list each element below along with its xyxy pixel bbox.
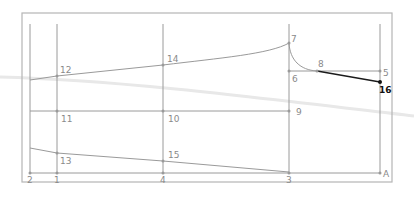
line-8-16 xyxy=(317,71,380,82)
point-14-marker xyxy=(162,64,165,67)
point-A-marker xyxy=(379,172,382,175)
label-3: 3 xyxy=(286,175,292,185)
point-12-marker xyxy=(56,75,59,78)
label-7: 7 xyxy=(291,34,297,44)
point-9-marker xyxy=(288,110,291,113)
curve-7-8 xyxy=(289,43,317,71)
point-10-marker xyxy=(162,110,165,113)
point-5-marker xyxy=(379,70,382,73)
point-11-marker xyxy=(56,110,59,113)
pattern-draft-diagram: 2 1 4 3 A 5 6 7 8 9 10 11 12 13 14 15 16 xyxy=(0,0,414,198)
label-A: A xyxy=(383,169,390,179)
label-10: 10 xyxy=(168,114,180,124)
point-15-marker xyxy=(162,160,165,163)
label-11: 11 xyxy=(61,114,72,124)
outer-frame xyxy=(22,13,392,182)
point-6-marker xyxy=(288,70,291,73)
label-14: 14 xyxy=(167,54,179,64)
label-2: 2 xyxy=(27,175,33,185)
point-13-marker xyxy=(56,152,59,155)
label-13: 13 xyxy=(60,156,71,166)
label-4: 4 xyxy=(160,175,166,185)
label-9: 9 xyxy=(296,107,302,117)
label-1: 1 xyxy=(54,175,60,185)
label-15: 15 xyxy=(168,150,179,160)
label-8: 8 xyxy=(318,59,324,69)
label-16: 16 xyxy=(379,85,392,95)
label-12: 12 xyxy=(60,65,71,75)
label-6: 6 xyxy=(292,74,298,84)
point-8-marker xyxy=(316,70,319,73)
scan-artifact-line xyxy=(0,77,414,116)
point-16-marker xyxy=(378,80,382,84)
label-5: 5 xyxy=(383,68,389,78)
